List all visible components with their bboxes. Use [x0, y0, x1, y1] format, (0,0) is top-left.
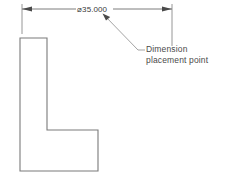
annotation-note-line-2: placement point: [146, 55, 209, 65]
annotation-leader-line[interactable]: [105, 16, 138, 50]
dimension-value-label[interactable]: ⌀35.000: [77, 5, 108, 14]
l-bracket-profile-outline[interactable]: [20, 38, 98, 171]
cad-drawing-svg: ⌀35.000 Dimension placement point: [0, 0, 231, 184]
dimension-left-arrowhead: [22, 6, 32, 11]
dimension-right-arrowhead: [162, 6, 172, 11]
cad-drawing-canvas[interactable]: ⌀35.000 Dimension placement point: [0, 0, 231, 184]
annotation-note-line-1: Dimension: [146, 44, 188, 54]
